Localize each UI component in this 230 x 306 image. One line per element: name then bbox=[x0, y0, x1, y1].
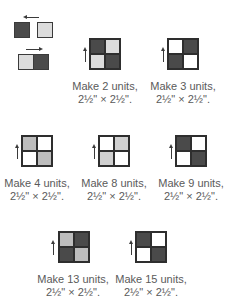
unit-caption: Make 2 units, 2½" × 2½". bbox=[65, 80, 145, 106]
four-patch-unit-15 bbox=[135, 231, 167, 263]
four-patch-unit-2 bbox=[89, 38, 121, 70]
press-up-arrow-icon bbox=[94, 147, 95, 159]
press-up-arrow-icon bbox=[53, 243, 54, 255]
light-square bbox=[37, 22, 53, 38]
press-up-arrow-icon bbox=[85, 50, 86, 62]
four-patch-unit-13 bbox=[58, 231, 90, 263]
dark-square-sewn bbox=[33, 54, 49, 70]
four-patch-unit-4 bbox=[21, 135, 53, 167]
press-up-arrow-icon bbox=[163, 50, 164, 62]
four-patch-unit-9 bbox=[175, 135, 207, 167]
light-square-sewn bbox=[18, 54, 34, 70]
unit-caption: Make 4 units, 2½" × 2½". bbox=[0, 177, 77, 203]
press-right-arrow-icon bbox=[26, 49, 40, 50]
unit-caption: Make 8 units, 2½" × 2½". bbox=[74, 177, 154, 203]
four-patch-unit-3 bbox=[167, 38, 199, 70]
press-up-arrow-icon bbox=[17, 147, 18, 159]
press-up-arrow-icon bbox=[171, 147, 172, 159]
unit-caption: Make 15 units, 2½" × 2½". bbox=[111, 273, 191, 299]
dark-square bbox=[14, 22, 30, 38]
unit-caption: Make 9 units, 2½" × 2½". bbox=[151, 177, 230, 203]
unit-caption: Make 3 units, 2½" × 2½". bbox=[143, 80, 223, 106]
unit-caption: Make 13 units, 2½" × 2½". bbox=[33, 273, 113, 299]
press-up-arrow-icon bbox=[131, 243, 132, 255]
press-left-arrow-icon bbox=[26, 17, 39, 18]
four-patch-unit-8 bbox=[98, 135, 130, 167]
